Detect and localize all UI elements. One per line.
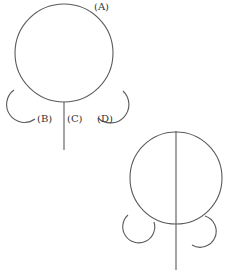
- figure-top: (A) (B) (C) (D): [7, 1, 129, 150]
- top-hook-b: [7, 90, 35, 122]
- top-circle-a: [15, 4, 113, 102]
- diagram-canvas: (A) (B) (C) (D): [0, 0, 229, 274]
- label-d: (D): [97, 113, 113, 124]
- bottom-hook-right: [192, 216, 216, 247]
- figure-bottom: [123, 131, 222, 270]
- diagram-svg: (A) (B) (C) (D): [0, 0, 229, 274]
- label-c: (C): [67, 113, 83, 124]
- label-b: (B): [37, 113, 52, 124]
- bottom-hook-left: [123, 215, 155, 243]
- label-a: (A): [94, 1, 109, 12]
